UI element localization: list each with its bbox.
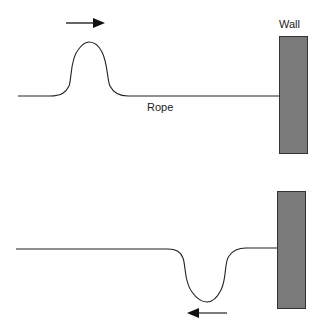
rope-incident bbox=[18, 42, 280, 96]
diagram-canvas bbox=[0, 0, 324, 334]
wall-top bbox=[280, 37, 308, 154]
arrow-right-icon bbox=[66, 18, 105, 28]
rope-reflected bbox=[16, 248, 278, 302]
wall-bottom bbox=[278, 192, 306, 309]
wall-label: Wall bbox=[279, 18, 300, 30]
incident-panel bbox=[18, 18, 308, 154]
arrow-left-icon bbox=[187, 308, 227, 318]
rope-label: Rope bbox=[147, 101, 173, 113]
reflected-panel bbox=[16, 192, 306, 319]
